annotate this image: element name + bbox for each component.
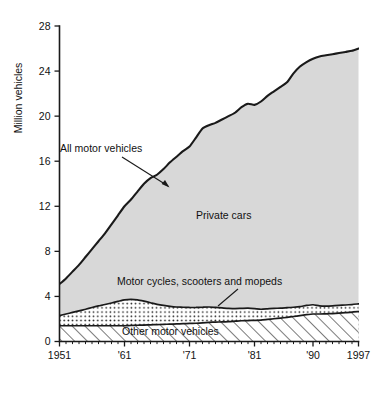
x-tick-label-1997: 1997	[347, 349, 371, 361]
y-tick-label-12: 12	[39, 200, 51, 212]
annotation-all-motor-vehicles-label: All motor vehicles	[60, 142, 142, 154]
y-tick-label-24: 24	[39, 65, 51, 77]
chart-container: 0481216202428 1951'61'71'81'901997 Milli…	[0, 0, 384, 393]
x-tick-label-1981: '81	[248, 349, 262, 361]
y-tick-label-28: 28	[39, 20, 51, 32]
annotation-motor-cycles-label: Motor cycles, scooters and mopeds	[117, 275, 282, 287]
y-axis-title: Million vehicles	[12, 63, 24, 134]
x-tick-label-1990: '90	[306, 349, 320, 361]
y-tick-label-16: 16	[39, 155, 51, 167]
y-tick-label-4: 4	[45, 290, 51, 302]
x-tick-label-1961: '61	[118, 349, 132, 361]
y-tick-label-0: 0	[45, 335, 51, 347]
annotation-private-cars-label: Private cars	[196, 209, 251, 221]
x-tick-label-1951: 1951	[48, 349, 72, 361]
y-tick-label-20: 20	[39, 110, 51, 122]
x-tick-label-1971: '71	[183, 349, 197, 361]
vehicles-stacked-area-chart: 0481216202428 1951'61'71'81'901997 Milli…	[0, 0, 384, 393]
annotation-other-motor-vehicles-label: Other motor vehicles	[122, 325, 219, 337]
y-tick-label-8: 8	[45, 245, 51, 257]
